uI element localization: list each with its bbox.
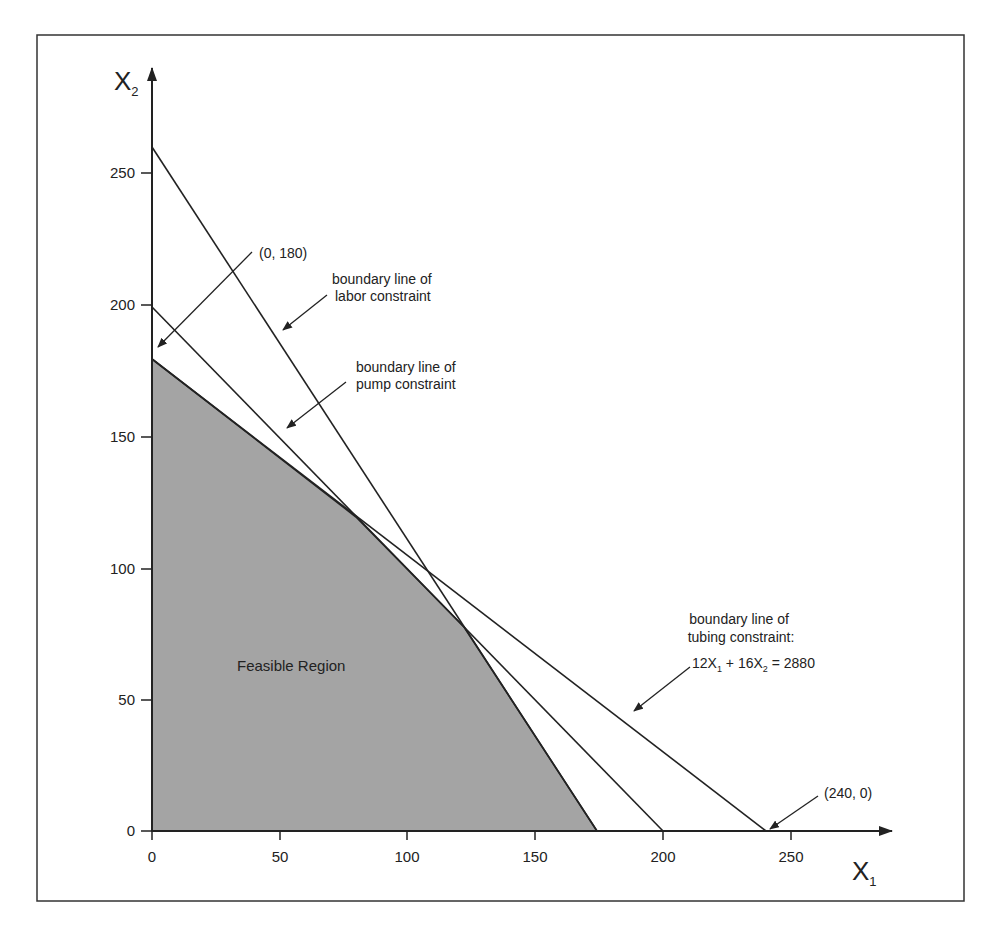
- pointer-arrow-tubing: [634, 667, 690, 711]
- svg-text:200: 200: [110, 296, 135, 313]
- svg-text:250: 250: [778, 848, 803, 865]
- pointer-arrow-pump: [287, 382, 346, 428]
- pump-label: boundary line of pump constraint: [356, 359, 460, 392]
- svg-text:200: 200: [650, 848, 675, 865]
- svg-text:50: 50: [272, 848, 289, 865]
- svg-text:0: 0: [148, 848, 156, 865]
- labor-label: boundary line of labor constraint: [332, 271, 436, 304]
- svg-text:250: 250: [110, 164, 135, 181]
- x-axis-label: X1: [852, 856, 877, 889]
- feasible-region: [152, 359, 597, 831]
- y-ticks: [141, 173, 152, 831]
- feasible-region-label: Feasible Region: [237, 657, 345, 674]
- svg-text:150: 150: [110, 428, 135, 445]
- pointer-arrow-0-180: [158, 252, 252, 347]
- point-label-240-0: (240, 0): [824, 785, 872, 801]
- svg-text:100: 100: [110, 560, 135, 577]
- svg-text:150: 150: [522, 848, 547, 865]
- tubing-label: boundary line of tubing constraint:: [688, 611, 795, 645]
- tubing-equation: 12X1 + 16X2 = 2880: [692, 655, 815, 674]
- svg-text:0: 0: [127, 822, 135, 839]
- point-label-0-180: (0, 180): [259, 245, 307, 261]
- svg-text:100: 100: [394, 848, 419, 865]
- pointer-arrow-labor: [283, 295, 327, 330]
- y-axis-label: X2: [114, 66, 139, 99]
- x-tick-labels: 0 50 100 150 200 250: [148, 848, 804, 865]
- y-tick-labels: 0 50 100 150 200 250: [110, 164, 135, 839]
- pointer-arrow-240-0: [770, 796, 818, 829]
- x-ticks: [152, 831, 791, 840]
- chart: 0 50 100 150 200 250 0 50 100 150 200 25…: [0, 0, 991, 945]
- svg-text:50: 50: [118, 691, 135, 708]
